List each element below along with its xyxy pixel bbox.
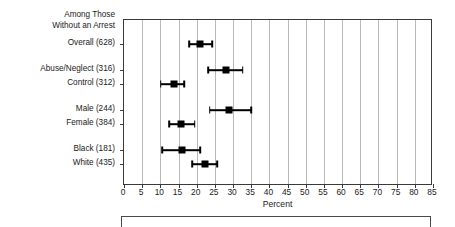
point-marker	[178, 121, 185, 128]
confidence-interval-cap	[211, 41, 213, 48]
x-axis-tick-label: 60	[336, 187, 345, 197]
x-axis-tick-label: 85	[427, 187, 436, 197]
confidence-interval-cap	[160, 81, 162, 88]
point-marker	[226, 107, 233, 114]
gridline	[415, 20, 416, 184]
confidence-interval-cap	[169, 121, 171, 128]
point-marker	[171, 81, 178, 88]
point-marker	[197, 41, 204, 48]
x-axis-tick-labels: 0510152025303540455055606570758085	[123, 187, 432, 199]
gridline	[179, 20, 180, 184]
chart-header-line-2: Without an Arrest	[0, 21, 115, 31]
x-axis-tick-label: 70	[373, 187, 382, 197]
gridline	[288, 20, 289, 184]
x-axis-tick-label: 55	[318, 187, 327, 197]
gridline	[142, 20, 143, 184]
x-axis-title: Percent	[123, 199, 432, 209]
gridline	[306, 20, 307, 184]
plot-area	[123, 19, 432, 185]
confidence-interval-cap	[207, 67, 209, 74]
gridline	[251, 20, 252, 184]
row-label-control: Control (312)	[0, 78, 115, 88]
gridline	[397, 20, 398, 184]
point-marker	[201, 161, 208, 168]
x-axis-tick-label: 75	[391, 187, 400, 197]
y-axis-tick	[120, 84, 124, 85]
confidence-interval-cap	[189, 41, 191, 48]
point-marker	[179, 147, 186, 154]
row-label-abuse-neglect: Abuse/Neglect (316)	[0, 64, 115, 74]
chart-header-line-1: Among Those	[0, 10, 115, 20]
x-axis-tick-label: 15	[173, 187, 182, 197]
row-label-black: Black (181)	[0, 144, 115, 154]
x-axis-tick-label: 45	[282, 187, 291, 197]
y-axis-tick	[120, 124, 124, 125]
y-axis-tick	[120, 164, 124, 165]
gridline	[269, 20, 270, 184]
x-axis-tick-label: 0	[121, 187, 126, 197]
point-marker	[222, 67, 229, 74]
confidence-interval-cap	[184, 81, 186, 88]
x-axis-tick-label: 30	[227, 187, 236, 197]
x-axis-tick-label: 35	[246, 187, 255, 197]
y-axis-tick	[120, 150, 124, 151]
y-axis-tick	[120, 44, 124, 45]
x-axis-tick-label: 25	[209, 187, 218, 197]
confidence-interval-cap	[250, 107, 252, 114]
gridline	[378, 20, 379, 184]
confidence-interval-cap	[161, 147, 163, 154]
confidence-interval-cap	[209, 107, 211, 114]
confidence-interval-cap	[200, 147, 202, 154]
confidence-interval-cap	[242, 67, 244, 74]
x-axis-tick-label: 80	[409, 187, 418, 197]
row-label-female: Female (384)	[0, 118, 115, 128]
x-axis-tick-label: 20	[191, 187, 200, 197]
gridline	[324, 20, 325, 184]
confidence-interval-cap	[192, 161, 194, 168]
row-label-male: Male (244)	[0, 104, 115, 114]
y-axis-tick	[120, 110, 124, 111]
confidence-interval-cap	[216, 161, 218, 168]
x-axis-tick-label: 10	[155, 187, 164, 197]
x-axis-tick-label: 50	[300, 187, 309, 197]
x-axis-tick-label: 5	[139, 187, 144, 197]
x-axis-tick-label: 65	[355, 187, 364, 197]
y-axis-tick	[120, 70, 124, 71]
caption-box-cropped	[121, 216, 431, 227]
gridline	[360, 20, 361, 184]
x-axis-tick-label: 40	[264, 187, 273, 197]
gridline	[342, 20, 343, 184]
gridline	[233, 20, 234, 184]
row-label-white: White (435)	[0, 158, 115, 168]
gridline	[160, 20, 161, 184]
row-label-column: Among Those Without an Arrest Overall (6…	[0, 0, 115, 190]
confidence-interval-cap	[194, 121, 196, 128]
gridline	[215, 20, 216, 184]
forest-plot-figure: Among Those Without an Arrest Overall (6…	[0, 0, 455, 227]
row-label-overall: Overall (628)	[0, 38, 115, 48]
